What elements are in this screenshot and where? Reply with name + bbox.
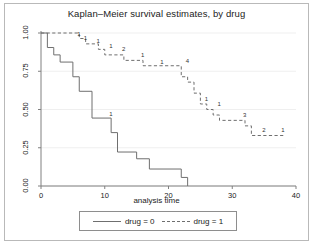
kaplan-meier-figure: Kaplan–Meier survival estimates, by drug… <box>0 0 313 244</box>
legend-label-drug-0: drug = 0 <box>125 217 155 226</box>
series-line-1 <box>41 33 283 136</box>
censor-count-label: 1 <box>96 38 99 44</box>
legend-swatch-dashed <box>162 221 190 222</box>
y-tick-label: 0.00 <box>21 173 30 199</box>
censor-count-label: 1 <box>141 52 144 58</box>
censor-count-label: 3 <box>243 112 246 118</box>
y-tick-label: 0.75 <box>21 58 30 84</box>
censor-count-label: 1 <box>109 111 112 117</box>
censor-count-label: 1 <box>77 31 80 37</box>
censor-count-label: 1 <box>109 43 112 49</box>
legend-swatch-solid <box>93 221 121 222</box>
censor-count-label: 2 <box>262 127 265 133</box>
censor-count-label: 1 <box>205 96 208 102</box>
censor-count-label: 2 <box>122 46 125 52</box>
censor-count-label: 1 <box>281 127 284 133</box>
censor-count-label: 1 <box>218 101 221 107</box>
legend: drug = 0 drug = 1 <box>79 211 237 231</box>
y-tick-label: 0.25 <box>21 134 30 160</box>
legend-entry-drug-0[interactable]: drug = 0 <box>93 217 155 226</box>
censor-count-label: 1 <box>160 59 163 65</box>
legend-entry-drug-1[interactable]: drug = 1 <box>162 217 224 226</box>
censor-count-label: 1 <box>84 35 87 41</box>
gridlines <box>41 33 296 186</box>
x-axis-title: analysis time <box>0 196 313 205</box>
legend-label-drug-1: drug = 1 <box>194 217 224 226</box>
y-tick-label: 1.00 <box>21 20 30 46</box>
y-tick-label: 0.50 <box>21 96 30 122</box>
censor-count-label: 4 <box>186 58 189 64</box>
plot-area <box>0 0 313 244</box>
